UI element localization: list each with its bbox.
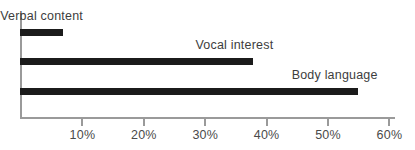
x-axis-tick bbox=[204, 119, 206, 126]
bar bbox=[20, 88, 358, 95]
x-axis-tick-label: 40% bbox=[244, 128, 290, 142]
horizontal-bar-chart: 10%20%30%40%50%60% Verbal contentVocal i… bbox=[0, 0, 415, 150]
x-axis-tick bbox=[266, 119, 268, 126]
bar-category-label: Verbal content bbox=[0, 9, 83, 23]
bar bbox=[20, 58, 253, 65]
x-axis-tick-label: 60% bbox=[366, 128, 412, 142]
x-axis-tick bbox=[388, 119, 390, 126]
x-axis-tick bbox=[81, 119, 83, 126]
x-axis-tick bbox=[327, 119, 329, 126]
bar-category-label: Body language bbox=[292, 68, 378, 82]
bar bbox=[20, 29, 63, 36]
bar-category-label: Vocal interest bbox=[195, 38, 273, 52]
x-axis-line bbox=[20, 117, 395, 119]
x-axis-tick-label: 10% bbox=[59, 128, 105, 142]
x-axis-tick-label: 20% bbox=[121, 128, 167, 142]
x-axis-tick bbox=[143, 119, 145, 126]
x-axis-tick-label: 50% bbox=[305, 128, 351, 142]
x-axis-tick-label: 30% bbox=[182, 128, 228, 142]
